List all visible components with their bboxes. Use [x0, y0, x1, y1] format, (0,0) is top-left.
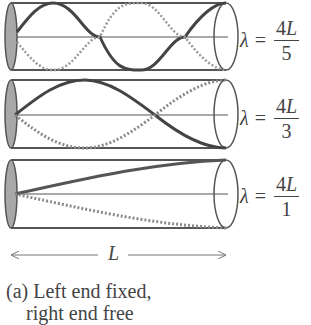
numerator: 4L [274, 174, 299, 197]
tube-1 [5, 3, 238, 70]
caption: (a) Left end fixed, [6, 280, 151, 303]
wavelength-formula-3: λ = 4L 1 [240, 174, 299, 219]
lambda-symbol: λ [240, 107, 249, 130]
open-end-rim [214, 80, 238, 148]
wave-dotted [15, 194, 226, 228]
length-label: L [108, 242, 119, 265]
denominator: 3 [282, 119, 292, 141]
wavelength-formula-2: λ = 4L 3 [240, 96, 299, 141]
lambda-symbol: λ [240, 29, 249, 52]
fraction: 4L 1 [274, 174, 299, 219]
numerator: 4L [274, 18, 299, 41]
numerator: 4L [274, 96, 299, 119]
wavelength-formula-1: λ = 4L 5 [240, 18, 299, 63]
wave-solid [15, 160, 226, 194]
equals-sign: = [255, 29, 266, 52]
tube-2 [5, 80, 238, 148]
lambda-symbol: λ [240, 185, 249, 208]
fraction: 4L 3 [274, 96, 299, 141]
caption-continued: right end free [26, 302, 134, 325]
equals-sign: = [255, 185, 266, 208]
tube-3 [5, 160, 238, 228]
denominator: 1 [282, 197, 292, 219]
equals-sign: = [255, 107, 266, 130]
fraction: 4L 5 [274, 18, 299, 63]
denominator: 5 [282, 41, 292, 63]
fixed-end-cap [5, 3, 17, 70]
